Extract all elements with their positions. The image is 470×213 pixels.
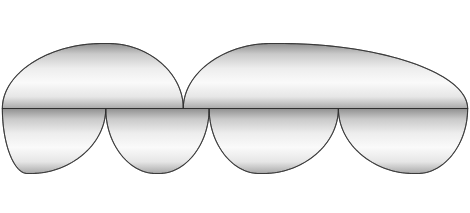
lobe-northern-americas-lobe: [2, 44, 183, 109]
interrupted-world-map: [0, 0, 470, 213]
lobe-southern-australia-lobe: [338, 109, 467, 174]
lobe-southern-africa-lobe: [209, 109, 338, 174]
lobe-southern-americas-lobe: [106, 109, 209, 174]
world-map-figure: [0, 0, 470, 213]
lobe-southern-pacific-lobe: [2, 109, 105, 174]
